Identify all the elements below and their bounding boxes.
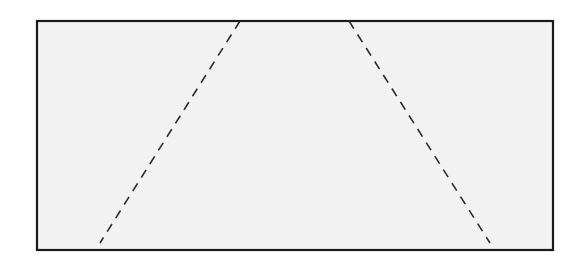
trapezoid-diagram [0,0,588,256]
bounding-rectangle [37,21,553,250]
